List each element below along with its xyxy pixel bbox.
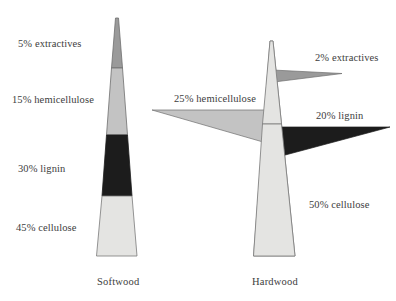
hardwood-extractives-segment	[273, 70, 343, 82]
softwood-lignin-label: 30% lignin	[18, 163, 65, 174]
softwood-hemicellulose-segment	[107, 68, 128, 135]
hardwood-spire-overlay	[263, 41, 282, 124]
softwood-column	[97, 18, 138, 256]
hardwood-category-label: Hardwood	[252, 276, 298, 287]
softwood-extractives-segment	[112, 18, 123, 68]
hardwood-column	[152, 41, 390, 256]
softwood-cellulose-segment	[97, 196, 138, 256]
hardwood-cellulose-label: 50% cellulose	[309, 199, 370, 210]
hardwood-hemicellulose-label: 25% hemicellulose	[174, 93, 256, 104]
softwood-cellulose-label: 45% cellulose	[16, 222, 77, 233]
softwood-lignin-segment	[102, 135, 132, 196]
softwood-hemicellulose-label: 15% hemicellulose	[12, 94, 94, 105]
softwood-category-label: Softwood	[97, 276, 139, 287]
hardwood-hemicellulose-segment	[152, 110, 277, 146]
hardwood-lignin-label: 20% lignin	[316, 110, 363, 121]
hardwood-lignin-segment	[274, 127, 390, 158]
softwood-extractives-label: 5% extractives	[18, 38, 82, 49]
wood-composition-figure: 5% extractives 15% hemicellulose 30% lig…	[0, 0, 396, 301]
hardwood-extractives-label: 2% extractives	[315, 52, 379, 63]
